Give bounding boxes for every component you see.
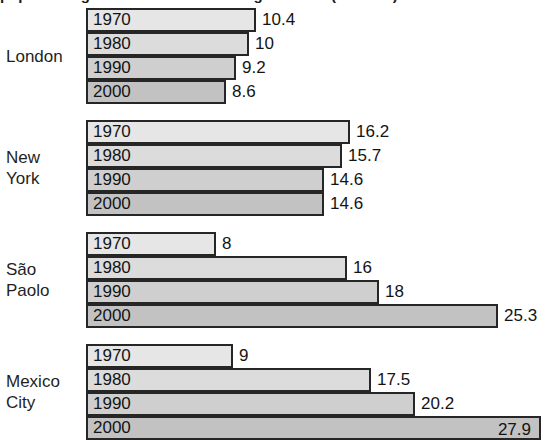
bar-value-label: 14.6 bbox=[330, 192, 363, 216]
bar-value-label: 9.2 bbox=[242, 56, 266, 80]
bar-value-label: 14.6 bbox=[330, 168, 363, 192]
bar-group: New York197016.2198015.7199014.6200014.6 bbox=[0, 120, 553, 216]
bar-value-label: 27.9 bbox=[498, 418, 531, 440]
bar-value-label: 9 bbox=[239, 344, 248, 368]
bar-year-label: 2000 bbox=[93, 306, 131, 326]
bar-row: 200027.9 bbox=[86, 416, 553, 440]
bar-year-label: 1970 bbox=[93, 122, 131, 142]
group-label-1: London bbox=[6, 46, 84, 67]
bar-1990: 1990 bbox=[86, 168, 324, 192]
bar-value-label: 8 bbox=[222, 232, 231, 256]
bar-1980: 1980 bbox=[86, 256, 347, 280]
bar-1970: 1970 bbox=[86, 120, 350, 144]
bar-row: 20008.6 bbox=[86, 80, 553, 104]
group-label-4: Mexico City bbox=[6, 371, 84, 413]
chart-title-clipped: population growth in the world's largest… bbox=[0, 0, 553, 3]
bar-row: 200025.3 bbox=[86, 304, 553, 328]
bar-year-label: 1980 bbox=[93, 34, 131, 54]
bar-value-label: 20.2 bbox=[421, 392, 454, 416]
bar-1990: 1990 bbox=[86, 392, 415, 416]
bar-value-label: 10.4 bbox=[262, 8, 295, 32]
bar-year-label: 1990 bbox=[93, 394, 131, 414]
bar-1990: 1990 bbox=[86, 56, 236, 80]
bar-year-label: 1990 bbox=[93, 58, 131, 78]
bar-1980: 1980 bbox=[86, 32, 249, 56]
bar-value-label: 16.2 bbox=[356, 120, 389, 144]
bar-row: 197016.2 bbox=[86, 120, 553, 144]
bar-1990: 1990 bbox=[86, 280, 379, 304]
bar-row: 198010 bbox=[86, 32, 553, 56]
bar-year-label: 1970 bbox=[93, 346, 131, 366]
bar-value-label: 15.7 bbox=[348, 144, 381, 168]
bar-value-label: 25.3 bbox=[504, 304, 537, 328]
bar-group: Mexico City19709198017.5199020.2200027.9 bbox=[0, 344, 553, 440]
bar-2000: 2000 bbox=[86, 304, 498, 328]
bar-group: São Paolo19708198016199018200025.3 bbox=[0, 232, 553, 328]
bar-value-label: 18 bbox=[385, 280, 404, 304]
bar-year-label: 1990 bbox=[93, 282, 131, 302]
bar-group: London197010.419801019909.220008.6 bbox=[0, 8, 553, 104]
bar-2000: 2000 bbox=[86, 192, 324, 216]
bar-year-label: 1980 bbox=[93, 370, 131, 390]
bar-value-label: 16 bbox=[353, 256, 372, 280]
bar-row: 19909.2 bbox=[86, 56, 553, 80]
group-bars: 197016.2198015.7199014.6200014.6 bbox=[86, 120, 553, 216]
group-label-2: New York bbox=[6, 147, 84, 189]
bar-year-label: 2000 bbox=[93, 418, 131, 438]
bar-row: 198016 bbox=[86, 256, 553, 280]
bar-1980: 1980 bbox=[86, 144, 342, 168]
group-bars: 19708198016199018200025.3 bbox=[86, 232, 553, 328]
bar-year-label: 2000 bbox=[93, 82, 131, 102]
bar-year-label: 2000 bbox=[93, 194, 131, 214]
bar-year-label: 1980 bbox=[93, 146, 131, 166]
bar-year-label: 1970 bbox=[93, 234, 131, 254]
bar-row: 200014.6 bbox=[86, 192, 553, 216]
group-bars: 197010.419801019909.220008.6 bbox=[86, 8, 553, 104]
bar-value-label: 10 bbox=[255, 32, 274, 56]
group-bars: 19709198017.5199020.2200027.9 bbox=[86, 344, 553, 440]
bar-2000: 2000 bbox=[86, 80, 226, 104]
bar-1980: 1980 bbox=[86, 368, 371, 392]
bar-row: 199020.2 bbox=[86, 392, 553, 416]
bar-row: 198015.7 bbox=[86, 144, 553, 168]
bar-1970: 1970 bbox=[86, 8, 256, 32]
bar-year-label: 1970 bbox=[93, 10, 131, 30]
bar-value-label: 17.5 bbox=[377, 368, 410, 392]
bar-year-label: 1980 bbox=[93, 258, 131, 278]
bar-value-label: 8.6 bbox=[232, 80, 256, 104]
bar-1970: 1970 bbox=[86, 344, 233, 368]
bar-row: 19708 bbox=[86, 232, 553, 256]
bar-1970: 1970 bbox=[86, 232, 216, 256]
bar-year-label: 1990 bbox=[93, 170, 131, 190]
bar-row: 199014.6 bbox=[86, 168, 553, 192]
chart-title-text: population growth in the world's largest… bbox=[0, 0, 553, 3]
bar-2000: 200027.9 bbox=[86, 416, 541, 440]
bar-row: 199018 bbox=[86, 280, 553, 304]
group-label-3: São Paolo bbox=[6, 259, 84, 301]
bar-row: 197010.4 bbox=[86, 8, 553, 32]
bar-row: 19709 bbox=[86, 344, 553, 368]
bar-row: 198017.5 bbox=[86, 368, 553, 392]
